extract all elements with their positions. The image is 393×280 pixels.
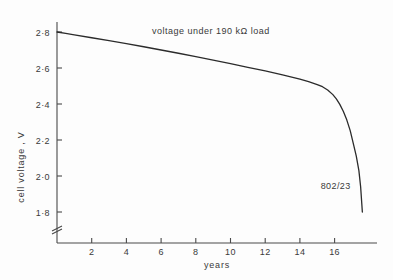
line-chart: 1·82·02·22·42·62·8 246810121416 voltage … — [0, 0, 393, 280]
x-tick-label: 4 — [124, 247, 129, 257]
x-tick-label: 6 — [158, 247, 163, 257]
x-tick-label: 10 — [225, 247, 236, 257]
y-axis-title: cell voltage , V — [16, 131, 26, 202]
chart-container: 1·82·02·22·42·62·8 246810121416 voltage … — [0, 0, 393, 280]
x-tick-label: 12 — [260, 247, 271, 257]
x-axis-title: years — [204, 260, 230, 270]
data-series-line — [57, 32, 362, 212]
x-tick-label: 14 — [294, 247, 305, 257]
x-tick-label: 2 — [89, 247, 94, 257]
y-tick-label: 1·8 — [36, 208, 50, 218]
chart-annotations: 802/23 — [321, 181, 351, 191]
series-annotation-label: 802/23 — [321, 181, 351, 191]
y-tick-label: 2·8 — [36, 28, 50, 38]
y-axis-ticks — [57, 32, 62, 212]
x-axis-tick-labels: 246810121416 — [89, 247, 340, 257]
chart-title: voltage under 190 kΩ load — [152, 26, 270, 36]
y-tick-label: 2·4 — [36, 100, 50, 110]
x-tick-label: 8 — [193, 247, 198, 257]
y-tick-label: 2·6 — [36, 64, 50, 74]
x-tick-label: 16 — [329, 247, 340, 257]
y-axis-tick-labels: 1·82·02·22·42·62·8 — [36, 28, 50, 218]
x-axis-ticks — [92, 238, 335, 243]
y-tick-label: 2·2 — [36, 136, 50, 146]
y-tick-label: 2·0 — [36, 172, 50, 182]
